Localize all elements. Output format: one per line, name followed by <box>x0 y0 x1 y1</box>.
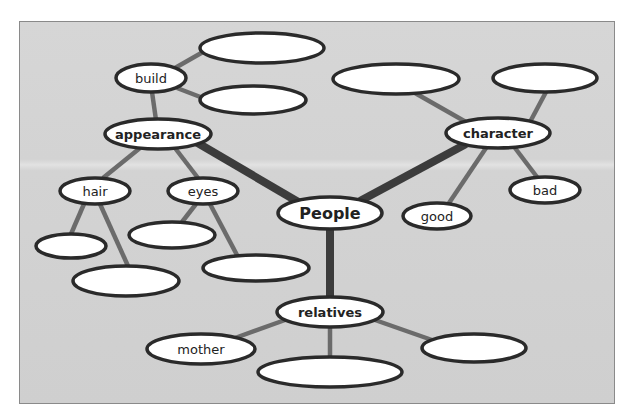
node-build-blank-1[interactable] <box>200 33 324 63</box>
node-character-blank-2[interactable] <box>493 64 597 92</box>
node-label-people: People <box>299 204 361 223</box>
node-hair[interactable]: hair <box>60 178 130 204</box>
node-hair-blank-1[interactable] <box>36 234 106 258</box>
node-eyes-blank-2[interactable] <box>203 255 309 281</box>
node-relatives-blank-2[interactable] <box>422 334 526 362</box>
node-label-bad: bad <box>533 183 557 198</box>
edge-character-good <box>449 148 486 203</box>
mind-map-canvas: build appearance hair eyes <box>0 0 634 420</box>
node-bad[interactable]: bad <box>510 177 580 203</box>
edge-character-blank2 <box>530 92 546 122</box>
nodes: build appearance hair eyes <box>36 33 597 387</box>
edge-character-blank1 <box>415 93 466 122</box>
node-character[interactable]: character <box>446 118 550 148</box>
node-label-hair: hair <box>82 184 108 199</box>
node-label-relatives: relatives <box>298 305 362 320</box>
edge-eyes-blank1 <box>182 204 196 222</box>
edge-build-blank2 <box>177 88 203 98</box>
edge-relatives-blank2 <box>375 320 432 340</box>
node-eyes[interactable]: eyes <box>168 178 238 204</box>
node-mother[interactable]: mother <box>147 334 255 364</box>
node-good[interactable]: good <box>403 203 471 229</box>
node-label-eyes: eyes <box>188 184 219 199</box>
edge-build-blank1 <box>175 52 203 68</box>
edge-eyes-blank2 <box>210 204 237 255</box>
node-build[interactable]: build <box>116 64 186 92</box>
node-label-build: build <box>135 71 167 86</box>
edge-character-bad <box>515 148 537 177</box>
node-hair-blank-2[interactable] <box>73 266 179 296</box>
node-label-mother: mother <box>177 342 225 357</box>
node-character-blank-1[interactable] <box>333 64 459 94</box>
mind-map-stage: build appearance hair eyes <box>0 0 634 420</box>
edge-appearance-build <box>152 92 156 120</box>
edge-people-character <box>360 144 466 201</box>
node-label-appearance: appearance <box>115 127 201 142</box>
node-people-root[interactable]: People <box>278 197 382 229</box>
edge-hair-blank1 <box>71 204 84 234</box>
node-label-good: good <box>421 209 453 224</box>
edge-relatives-mother <box>235 320 285 338</box>
node-relatives[interactable]: relatives <box>277 297 383 327</box>
node-eyes-blank-1[interactable] <box>129 222 215 248</box>
node-label-character: character <box>463 126 534 141</box>
node-build-blank-2[interactable] <box>200 86 306 114</box>
node-relatives-blank-1[interactable] <box>258 357 402 387</box>
node-appearance[interactable]: appearance <box>105 119 211 149</box>
edge-appearance-eyes <box>175 148 198 178</box>
edge-hair-blank2 <box>100 204 128 266</box>
edge-appearance-hair <box>103 148 140 178</box>
